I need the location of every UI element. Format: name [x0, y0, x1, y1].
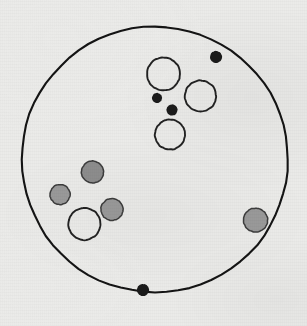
objects-layer	[50, 51, 268, 296]
black-dot-center-upper-shape	[152, 93, 162, 103]
open-circle-top-right-shape	[185, 80, 216, 111]
open-circle-lower-left-shape	[68, 208, 100, 240]
gray-circle-center-left	[101, 199, 123, 221]
open-circle-top-left	[147, 57, 180, 90]
open-circle-top-left-shape	[147, 57, 180, 90]
black-dot-center-upper	[152, 93, 162, 103]
open-circle-middle-shape	[155, 120, 185, 150]
gray-circle-right-edge	[244, 208, 268, 232]
circle-diagram-svg: Scanned circular field diagram A large h…	[0, 0, 307, 326]
open-circle-middle	[155, 120, 185, 150]
gray-circle-upper-left-cluster	[81, 161, 103, 183]
boundary-group	[22, 27, 288, 293]
figure-canvas: Scanned circular field diagram A large h…	[0, 0, 307, 326]
large-boundary-circle	[22, 27, 288, 293]
gray-circle-right-edge-shape	[244, 208, 268, 232]
open-circle-top-right	[185, 80, 216, 111]
black-dot-bottom-shape	[137, 284, 149, 296]
open-circle-lower-left	[68, 208, 100, 240]
gray-circle-left	[50, 185, 70, 205]
gray-circle-upper-left-cluster-shape	[81, 161, 103, 183]
black-dot-bottom	[137, 284, 149, 296]
black-dot-top-right-shape	[210, 51, 222, 63]
black-dot-center-lower	[166, 104, 177, 115]
gray-circle-center-left-shape	[101, 199, 123, 221]
black-dot-center-lower-shape	[166, 104, 177, 115]
gray-circle-left-shape	[50, 185, 70, 205]
black-dot-top-right	[210, 51, 222, 63]
